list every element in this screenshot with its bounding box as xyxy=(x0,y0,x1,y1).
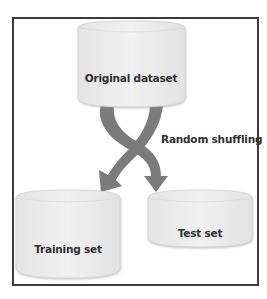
original-dataset-label: Original dataset xyxy=(85,72,178,84)
shuffle-arrows xyxy=(99,104,168,192)
training-set-label: Training set xyxy=(34,243,102,255)
original-dataset-cylinder xyxy=(78,21,185,107)
test-set-label: Test set xyxy=(178,227,223,239)
random-shuffling-label: Random shuffling xyxy=(161,133,262,145)
training-set-cylinder xyxy=(16,190,120,278)
